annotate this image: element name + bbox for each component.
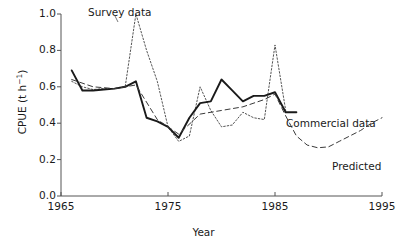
x-axis-ticks [61,192,382,196]
series-label-predicted: Predicted [332,160,381,172]
y-axis-ticks [57,14,61,196]
x-tick-label: 1985 [250,200,300,212]
series-line-commercial-data [72,70,297,137]
x-tick-label: 1965 [36,200,86,212]
y-tick-label: 0.8 [18,43,56,55]
y-tick-label: 1.0 [18,7,56,19]
y-axis-title: CPUE (t h−1) [16,62,28,142]
series-label-commercial-data: Commercial data [286,117,376,129]
x-tick-label: 1995 [357,200,407,212]
series-label-survey-data: Survey data [88,6,152,18]
x-tick-label: 1975 [143,200,193,212]
y-tick-label: 0.2 [18,153,56,165]
x-axis-title: Year [0,226,407,238]
chart-figure: 0.00.20.40.60.81.0 1965197519851995 CPUE… [0,0,407,247]
series-line-predicted [72,80,382,148]
series-line-survey-data [72,14,286,141]
